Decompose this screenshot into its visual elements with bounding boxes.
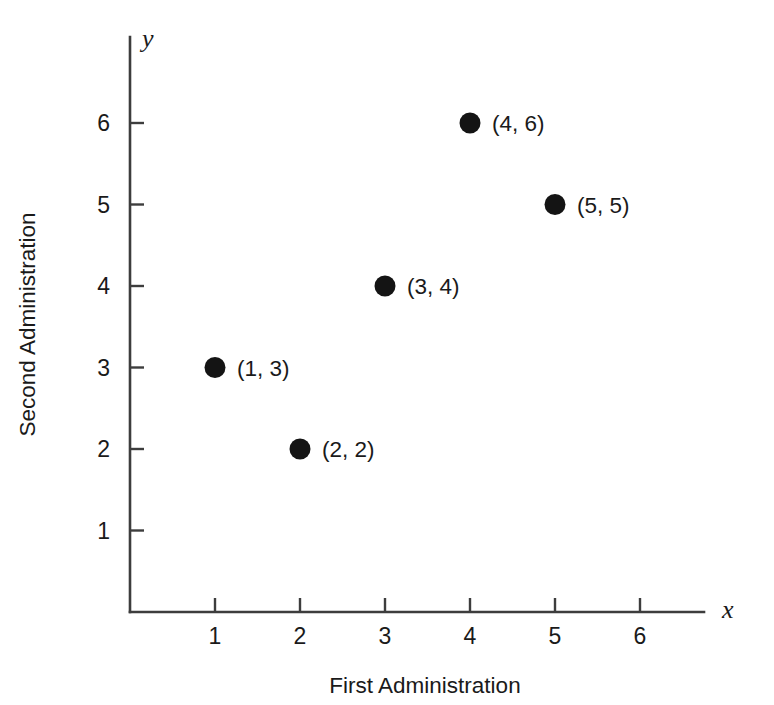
x-axis-title: First Administration	[329, 673, 520, 698]
y-tick-label-2: 2	[97, 436, 110, 462]
plot-canvas: 123456 123456 (1, 3)(2, 2)(3, 4)(4, 6)(5…	[0, 0, 774, 705]
y-axis-ticks	[130, 123, 144, 531]
x-tick-label-2: 2	[294, 623, 307, 649]
x-tick-label-6: 6	[634, 623, 647, 649]
data-point-labels-group: (1, 3)(2, 2)(3, 4)(4, 6)(5, 5)	[237, 111, 630, 462]
y-tick-label-5: 5	[97, 192, 110, 218]
scatter-plot-figure: 123456 123456 (1, 3)(2, 2)(3, 4)(4, 6)(5…	[0, 0, 774, 705]
y-axis-title: Second Administration	[15, 213, 40, 437]
x-tick-label-5: 5	[549, 623, 562, 649]
data-point-5-5	[545, 194, 566, 215]
y-axis-symbol-label: y	[139, 24, 154, 53]
data-point-4-6	[460, 113, 481, 134]
data-point-label-2-2: (2, 2)	[322, 437, 375, 462]
x-tick-label-3: 3	[379, 623, 392, 649]
y-tick-label-3: 3	[97, 355, 110, 381]
y-axis-tick-labels: 123456	[97, 110, 110, 544]
x-axis-ticks	[215, 598, 640, 612]
data-point-label-1-3: (1, 3)	[237, 356, 290, 381]
x-tick-label-4: 4	[464, 623, 477, 649]
data-point-label-3-4: (3, 4)	[407, 274, 460, 299]
data-point-3-4	[375, 276, 396, 297]
data-point-label-5-5: (5, 5)	[577, 193, 630, 218]
data-point-label-4-6: (4, 6)	[492, 111, 545, 136]
y-tick-label-1: 1	[97, 518, 110, 544]
data-points-group	[205, 113, 566, 460]
x-axis-symbol-label: x	[721, 595, 734, 624]
axes-group	[130, 37, 704, 612]
y-tick-label-4: 4	[97, 273, 110, 299]
data-point-1-3	[205, 357, 226, 378]
y-tick-label-6: 6	[97, 110, 110, 136]
x-axis-tick-labels: 123456	[209, 623, 647, 649]
x-tick-label-1: 1	[209, 623, 222, 649]
data-point-2-2	[290, 439, 311, 460]
